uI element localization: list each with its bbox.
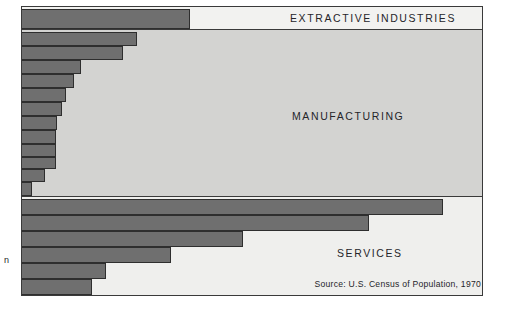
bar-manufacturing-12 (22, 182, 32, 196)
bar-services-1 (22, 199, 443, 215)
bar-manufacturing-7 (22, 116, 57, 130)
bar-services-5 (22, 263, 106, 279)
chart-frame: EXTRACTIVE INDUSTRIES MANUFACTURING SERV… (21, 6, 483, 296)
band-label-services: SERVICES (337, 247, 403, 259)
bar-manufacturing-5 (22, 88, 66, 102)
bar-manufacturing-4 (22, 74, 74, 88)
bar-services-4 (22, 247, 171, 263)
bar-manufacturing-10 (22, 157, 56, 170)
bar-services-6 (22, 279, 92, 295)
bar-manufacturing-6 (22, 102, 62, 116)
bar-manufacturing-9 (22, 144, 56, 157)
bar-manufacturing-3 (22, 60, 81, 74)
band-label-manufacturing: MANUFACTURING (292, 110, 404, 122)
bar-extractive-1 (22, 9, 190, 29)
bar-manufacturing-2 (22, 46, 123, 60)
bar-services-2 (22, 215, 369, 231)
bar-manufacturing-1 (22, 32, 137, 46)
bar-manufacturing-11 (22, 169, 45, 182)
source-note: Source: U.S. Census of Population, 1970 (315, 279, 481, 289)
bar-services-3 (22, 231, 243, 247)
bars-layer (22, 7, 482, 295)
band-label-extractive-industries: EXTRACTIVE INDUSTRIES (290, 12, 456, 24)
bar-manufacturing-8 (22, 130, 56, 144)
caption-fragment: n (4, 256, 11, 265)
